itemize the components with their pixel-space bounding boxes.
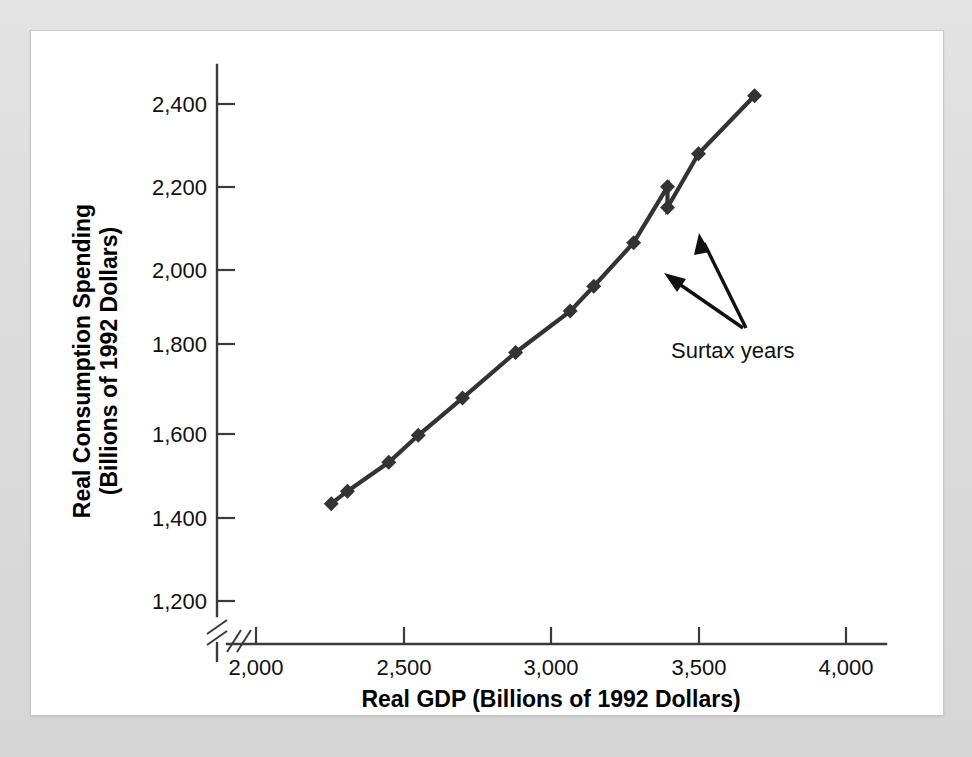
- consumption-function-line: [331, 96, 754, 504]
- x-tick-label-3500: 3,500: [671, 655, 726, 680]
- x-axis-break-icon: [227, 630, 251, 652]
- y-tick-label-1800: 1,800: [152, 332, 207, 357]
- surtax-years-label: Surtax years: [671, 338, 795, 363]
- x-tick-label-4000: 4,000: [818, 655, 873, 680]
- data-point-markers: [324, 88, 762, 511]
- y-axis-title-line2: (Billions of 1992 Dollars): [96, 227, 122, 495]
- x-tick-label-3000: 3,000: [523, 655, 578, 680]
- surtax-arrowhead-lower: [664, 273, 686, 292]
- surtax-annotation: Surtax years: [664, 233, 795, 363]
- y-tick-label-2400: 2,400: [152, 92, 207, 117]
- figure-background: 2,400 2,200 2,000 1,800 1,600 1,400 1,20…: [0, 0, 972, 757]
- y-axis-title-line1: Real Consumption Spending: [69, 204, 95, 518]
- chart-panel: 2,400 2,200 2,000 1,800 1,600 1,400 1,20…: [30, 30, 944, 716]
- y-tick-label-1600: 1,600: [152, 422, 207, 447]
- y-tick-label-1400: 1,400: [152, 506, 207, 531]
- x-axis-title: Real GDP (Billions of 1992 Dollars): [361, 686, 740, 712]
- surtax-arrowhead-upper: [694, 233, 710, 255]
- x-tick-marks: [256, 627, 846, 644]
- y-tick-marks: [217, 104, 235, 601]
- y-axis-break-icon: [207, 620, 227, 645]
- y-tick-label-2000: 2,000: [152, 258, 207, 283]
- x-tick-label-2500: 2,500: [376, 655, 431, 680]
- y-tick-label-2200: 2,200: [152, 175, 207, 200]
- x-tick-label-2000: 2,000: [228, 655, 283, 680]
- y-tick-label-1200: 1,200: [152, 589, 207, 614]
- line-chart: 2,400 2,200 2,000 1,800 1,600 1,400 1,20…: [31, 31, 943, 715]
